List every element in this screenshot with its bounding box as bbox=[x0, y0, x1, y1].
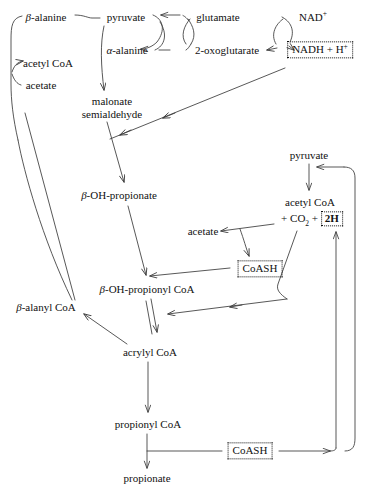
node-pyruvate-right: pyruvate bbox=[290, 149, 328, 161]
node-acetyl-coa-right: acetyl CoA bbox=[285, 196, 335, 208]
node-beta-oh-propionyl-coa: β-OH-propionyl CoA bbox=[99, 283, 194, 295]
edge-nadh-diagonal-arrowhead-2 bbox=[120, 130, 131, 135]
edge-equilibrium-down bbox=[151, 299, 157, 332]
edge-to-oxoglutarate-arrowhead bbox=[267, 48, 277, 50]
edge-left-to-acetate bbox=[12, 74, 21, 85]
nadh-h-box: NADH + H+ bbox=[287, 41, 353, 58]
coash-mid-box: CoASH bbox=[238, 260, 283, 277]
edge-left-loop-long-diagonal bbox=[18, 140, 72, 300]
node-co2-2h: + CO2 + 2H bbox=[281, 211, 343, 226]
node-coash-bottom: CoASH bbox=[228, 442, 273, 459]
node-nad-plus: NAD+ bbox=[299, 11, 327, 23]
node-acrylyl-coa: acrylyl CoA bbox=[123, 346, 177, 358]
two-h-box: 2H bbox=[321, 211, 343, 226]
edge-right-loop-vertical bbox=[344, 167, 355, 451]
node-malonate-semialdehyde: malonate semialdehyde bbox=[82, 95, 142, 120]
edge-diagonal-to-beta-alanyl-coa bbox=[25, 113, 75, 300]
edge-glutamate-cross-down bbox=[188, 19, 194, 44]
edge-inner-right-bottom-join bbox=[330, 448, 336, 451]
edge-oxoglutarate-cross-up bbox=[183, 19, 190, 44]
edge-equilibrium-up bbox=[146, 301, 152, 334]
edge-oh-propionate-to-propionyl-coa bbox=[128, 206, 146, 275]
edge-beta-alanine-to-pyruvate bbox=[75, 15, 100, 18]
edge-acrylyl-to-beta-alanyl-coa bbox=[84, 314, 127, 344]
edge-acetyl-coa-to-acetate bbox=[221, 224, 274, 231]
node-alpha-alanine: α-alanine bbox=[106, 44, 147, 56]
node-propionyl-coa: propionyl CoA bbox=[115, 418, 181, 430]
node-2-oxoglutarate: 2-oxoglutarate bbox=[195, 44, 259, 56]
node-acetyl-coa-left: acetyl CoA bbox=[23, 57, 73, 69]
node-pyruvate-top: pyruvate bbox=[107, 11, 145, 23]
pathway-diagram: β-alanine pyruvate glutamate NAD+ α-alan… bbox=[0, 0, 370, 496]
node-beta-alanine: β-alanine bbox=[26, 11, 67, 23]
edge-acrylyl-inflow-horizontal bbox=[168, 299, 287, 314]
node-nadh-h: NADH + H+ bbox=[287, 41, 353, 58]
edge-nadh-cross-up bbox=[274, 19, 283, 44]
edge-oxoglutarate-inflow bbox=[186, 44, 191, 50]
node-glutamate: glutamate bbox=[196, 11, 239, 23]
edge-beta-alanine-left-curve bbox=[11, 16, 22, 140]
edge-alpha-alanine-up-curve bbox=[155, 22, 165, 50]
coash-bottom-box: CoASH bbox=[228, 442, 273, 459]
node-beta-alanyl-coa: β-alanyl CoA bbox=[16, 301, 76, 313]
node-acetate-left: acetate bbox=[26, 79, 57, 91]
edge-nadh-diagonal-arrowhead-1 bbox=[163, 113, 175, 118]
edge-cross-to-pyruvate-arrow bbox=[183, 16, 189, 22]
edge-coash-to-oh-propionyl-coa bbox=[150, 268, 230, 276]
edge-alpha-alanine-to-malonate bbox=[101, 26, 104, 90]
edge-left-to-acetyl-coa bbox=[12, 61, 23, 72]
pathway-arrows-layer bbox=[0, 0, 370, 496]
node-acetate-right: acetate bbox=[188, 225, 219, 237]
edge-acetyl-coa-branch-to-coash bbox=[240, 229, 249, 256]
edge-nad-down-curve bbox=[282, 17, 292, 42]
node-beta-oh-propionate: β-OH-propionate bbox=[81, 189, 157, 201]
edge-malonate-to-oh-propionate bbox=[107, 122, 124, 182]
node-propionate: propionate bbox=[123, 472, 170, 484]
node-coash-mid: CoASH bbox=[238, 260, 283, 277]
